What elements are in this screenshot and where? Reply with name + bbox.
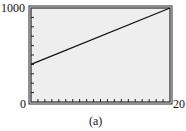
plot-area xyxy=(0,0,186,131)
plot-frame xyxy=(31,8,170,102)
